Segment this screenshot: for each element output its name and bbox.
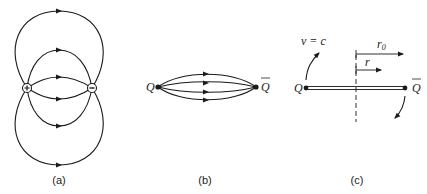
antiquark-dot (403, 86, 408, 91)
radius-r-label: r (365, 55, 370, 69)
arrow-icon (56, 9, 62, 14)
quark-dot (155, 84, 160, 89)
caption-b: (b) (198, 174, 211, 186)
velocity-label: v = c (301, 34, 326, 48)
antiquark-label: Q (412, 81, 421, 95)
string-bar (306, 87, 405, 90)
quark-dot (304, 86, 309, 91)
radius-r0-label: r0 (377, 37, 386, 52)
arrow-icon (56, 48, 62, 53)
figure-canvas: (a) Q Q (b) r0 r v = c Q Q (0, 0, 427, 194)
quark-label: Q (294, 81, 303, 95)
velocity-arrow-left (306, 53, 319, 80)
antiquark-dot (253, 84, 258, 89)
arrow-icon (56, 75, 62, 80)
flux-line (158, 87, 256, 100)
arrow-icon (203, 98, 209, 103)
panel-c-rotating-string: r0 r v = c Q Q (c) (294, 34, 421, 186)
arrow-icon (203, 72, 209, 77)
velocity-arrow-right (395, 96, 405, 118)
quark-label: Q (146, 80, 155, 94)
panel-b-flux-tube: Q Q (b) (146, 72, 270, 187)
negative-charge-icon (88, 84, 97, 93)
arrow-icon (56, 163, 62, 168)
antiquark-label: Q (261, 80, 270, 94)
arrow-icon (56, 97, 62, 102)
field-line-near-top (27, 77, 92, 88)
field-line-near-bottom (27, 88, 92, 99)
arrow-icon (203, 90, 209, 95)
flux-line (158, 74, 256, 87)
panel-a-dipole-field: (a) (15, 9, 103, 187)
caption-a: (a) (52, 174, 65, 186)
arrow-icon (56, 124, 62, 129)
positive-charge-icon (23, 84, 32, 93)
caption-c: (c) (351, 174, 364, 186)
